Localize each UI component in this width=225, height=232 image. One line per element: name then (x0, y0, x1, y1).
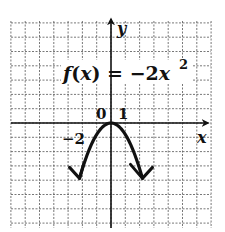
equation-exponent: 2 (179, 57, 188, 72)
x-tick-label: 1 (118, 105, 128, 123)
y-tick-label: −2 (62, 130, 85, 148)
y-axis-label: y (116, 19, 128, 38)
parabola-graph: y x 0 1 −2 f(x) = −2x 2 (0, 0, 225, 232)
origin-label: 0 (96, 105, 106, 123)
curve-arrow-icon (70, 164, 84, 178)
x-axis-label: x (196, 128, 207, 147)
equation-label: f(x) = −2x (61, 62, 171, 84)
